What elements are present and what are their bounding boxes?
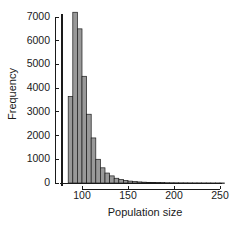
histogram-bar bbox=[119, 179, 124, 183]
y-tick-label-wrap: 5000 bbox=[12, 64, 54, 65]
y-tick-label-wrap: 0 bbox=[12, 183, 54, 184]
y-tick-label-wrap: 6000 bbox=[12, 41, 54, 42]
histogram-bar bbox=[77, 29, 82, 183]
histogram-bar bbox=[114, 178, 119, 183]
y-tick-label: 6000 bbox=[27, 35, 50, 46]
y-tick-label-wrap: 7000 bbox=[12, 17, 54, 18]
y-tick-label: 5000 bbox=[27, 58, 50, 69]
x-tick-label: 200 bbox=[154, 190, 194, 201]
histogram-bar bbox=[100, 168, 105, 183]
histogram-bar bbox=[110, 176, 115, 183]
histogram-figure: Frequency Population size 01000200030004… bbox=[0, 0, 241, 230]
histogram-bar bbox=[96, 159, 101, 183]
histogram-bar bbox=[73, 12, 78, 183]
histogram-bar bbox=[105, 173, 110, 183]
x-tick-label: 150 bbox=[108, 190, 148, 201]
y-tick-label-wrap: 3000 bbox=[12, 112, 54, 113]
y-tick-label: 0 bbox=[44, 177, 50, 188]
y-tick-label: 2000 bbox=[27, 130, 50, 141]
x-tick-label: 100 bbox=[62, 190, 102, 201]
y-tick-label: 7000 bbox=[27, 11, 50, 22]
histogram-bar bbox=[68, 96, 73, 183]
x-tick-label: 250 bbox=[200, 190, 240, 201]
y-tick-label-wrap: 1000 bbox=[12, 159, 54, 160]
y-tick-label-wrap: 2000 bbox=[12, 136, 54, 137]
histogram-bar bbox=[87, 114, 92, 183]
y-tick-label: 4000 bbox=[27, 82, 50, 93]
histogram-bar bbox=[91, 138, 96, 183]
y-tick-label: 1000 bbox=[27, 153, 50, 164]
bars-group bbox=[68, 12, 224, 183]
y-tick-label: 3000 bbox=[27, 106, 50, 117]
y-tick-label-wrap: 4000 bbox=[12, 88, 54, 89]
histogram-bar bbox=[82, 76, 87, 183]
